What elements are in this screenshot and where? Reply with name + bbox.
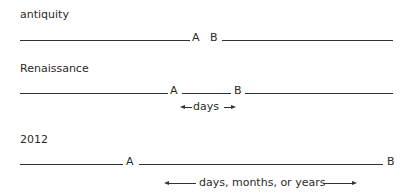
timeline-segment: [20, 93, 168, 94]
interval-label: days: [193, 101, 219, 113]
point-b-label: B: [387, 156, 395, 168]
point-a-label: A: [192, 32, 200, 44]
interval-label: days, months, or years: [199, 177, 325, 189]
point-b-label: B: [210, 32, 218, 44]
point-b-label: B: [234, 85, 242, 97]
timeline-segment: [139, 164, 383, 165]
point-a-label: A: [126, 156, 134, 168]
timeline-segment: [182, 93, 231, 94]
arrow-shaft: [168, 183, 196, 184]
timeline-segment: [245, 93, 393, 94]
arrow-right-icon: [352, 181, 357, 185]
arrow-shaft: [323, 183, 353, 184]
arrow-shaft: [184, 107, 192, 108]
era-label: antiquity: [20, 9, 69, 21]
arrow-right-icon: [231, 105, 236, 109]
era-label: Renaissance: [20, 63, 89, 75]
point-a-label: A: [170, 85, 178, 97]
timeline-segment: [20, 164, 123, 165]
era-label: 2012: [20, 134, 48, 146]
timeline-segment: [20, 40, 190, 41]
timeline-segment: [222, 40, 393, 41]
